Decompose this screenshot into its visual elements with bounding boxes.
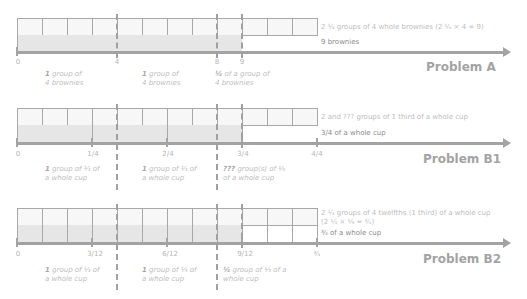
- tick-label: 0: [16, 150, 20, 158]
- cell: [42, 225, 68, 242]
- note-text: group of ⅓ of: [147, 266, 197, 274]
- tick: [166, 138, 168, 147]
- note-text: 4 brownies: [215, 79, 253, 87]
- number-line: [17, 51, 505, 54]
- cell: [192, 225, 218, 242]
- cell: [292, 108, 318, 126]
- note-text: of a group of: [222, 70, 269, 78]
- quarter-divider: [167, 125, 243, 142]
- dashed-divider: [116, 204, 118, 290]
- note-text: group of ⅓ of: [50, 266, 100, 274]
- arrow-head-icon: [503, 47, 511, 57]
- cell: [17, 208, 43, 226]
- group-note: ¼ group of ⅓ of a whole cup: [223, 266, 286, 284]
- tick: [316, 138, 318, 147]
- tick: [316, 238, 318, 247]
- note-text: group of ⅓ of: [147, 165, 197, 173]
- cell: [117, 18, 143, 36]
- shaded-bar: [17, 35, 242, 52]
- note-text: 4 brownies: [142, 79, 180, 87]
- top-description-line2: (2 ¼ × ⅓ = ¾): [321, 218, 374, 226]
- group-note: 1 group of 4 brownies: [45, 70, 83, 88]
- cell: [17, 108, 43, 126]
- cell: [142, 225, 168, 242]
- tick-label: 6/12: [162, 250, 178, 258]
- cell: [192, 18, 218, 36]
- cell: [292, 18, 318, 36]
- arrow-head-icon: [503, 138, 511, 148]
- cell: [67, 108, 93, 126]
- top-description: 2 ¼ groups of 4 twelfths (1 third) of a …: [321, 209, 490, 227]
- cell: [192, 208, 218, 226]
- cell: [42, 18, 68, 36]
- dashed-divider: [216, 104, 218, 190]
- cell: [292, 225, 318, 242]
- cell: [167, 225, 193, 242]
- tick-label: 4/4: [311, 150, 322, 158]
- cell: [242, 18, 268, 36]
- tick-label: 9/12: [237, 250, 253, 258]
- dashed-divider: [116, 14, 118, 58]
- dashed-divider: [241, 104, 243, 148]
- group-note: ??? group(s) of ⅓ of a whole cup: [223, 165, 285, 183]
- note-text: a whole cup: [45, 275, 87, 283]
- quarter-divider: [17, 125, 93, 142]
- cell: [142, 18, 168, 36]
- cell: [117, 108, 143, 126]
- cell: [167, 18, 193, 36]
- note-text: whole cup: [223, 275, 259, 283]
- cell: [242, 225, 268, 242]
- cell: [267, 208, 293, 226]
- group-note: 1 group of ⅓ of a whole cup: [45, 266, 100, 284]
- cell: [67, 225, 93, 242]
- tick-label: 0: [16, 58, 20, 66]
- top-description: 2 ¼ groups of 4 whole brownies (2 ¼ × 4 …: [321, 23, 484, 32]
- note-text: group of ⅓ of: [50, 165, 100, 173]
- cell: [67, 18, 93, 36]
- dashed-divider: [116, 104, 118, 190]
- cell: [217, 18, 243, 36]
- cell: [142, 108, 168, 126]
- problem-title: Problem A: [426, 60, 496, 74]
- cell: [217, 108, 243, 126]
- note-text: of a whole cup: [223, 174, 274, 182]
- note-bold: ???: [223, 165, 235, 173]
- tick: [16, 138, 18, 147]
- top-description-line1: 2 ¼ groups of 4 twelfths (1 third) of a …: [321, 209, 490, 217]
- tick-label: 3/12: [87, 250, 103, 258]
- cell: [267, 225, 293, 242]
- dashed-divider: [216, 14, 218, 58]
- cell: [42, 108, 68, 126]
- note-text: 4 brownies: [45, 79, 83, 87]
- tick-label: 9: [240, 58, 244, 66]
- tick-label: 1/4: [87, 150, 98, 158]
- cell: [17, 225, 43, 242]
- cell: [42, 208, 68, 226]
- cell: [117, 208, 143, 226]
- note-text: a whole cup: [142, 174, 184, 182]
- group-note: 1 group of 4 brownies: [142, 70, 180, 88]
- cell: [142, 208, 168, 226]
- tick: [16, 238, 18, 247]
- group-note: ¼ of a group of 4 brownies: [215, 70, 269, 88]
- top-description: 2 and ??? groups of 1 third of a whole c…: [321, 113, 468, 122]
- note-text: group of ⅓ of a: [230, 266, 286, 274]
- dashed-divider: [241, 14, 243, 58]
- cell: [167, 208, 193, 226]
- problem-title: Problem B2: [423, 252, 501, 266]
- arrow-head-icon: [503, 238, 511, 248]
- quarter-divider: [92, 125, 168, 142]
- cell: [192, 108, 218, 126]
- bottom-description: ¾ of a whole cup: [321, 229, 381, 237]
- cell: [17, 18, 43, 36]
- group-note: 1 group of ⅓ of a whole cup: [45, 165, 100, 183]
- cell: [67, 208, 93, 226]
- tick: [166, 238, 168, 247]
- note-text: a whole cup: [142, 275, 184, 283]
- tick-label: 2/4: [162, 150, 173, 158]
- cell: [242, 208, 268, 226]
- tick-label: 0: [16, 250, 20, 258]
- note-text: group of: [147, 70, 179, 78]
- cell: [117, 225, 143, 242]
- tick-label: 8: [215, 58, 219, 66]
